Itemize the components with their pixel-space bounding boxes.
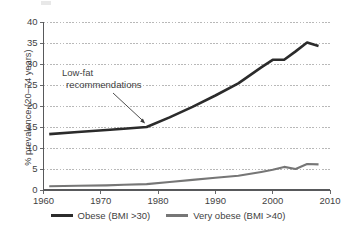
legend-line-swatch-icon — [51, 214, 73, 217]
legend-item[interactable]: Very obese (BMI >40) — [166, 211, 285, 221]
x-tick-label: 1960 — [24, 196, 64, 206]
series-very-obese-bmi-40 — [49, 164, 318, 186]
y-axis-title: % prevalence (20–74 years) — [24, 28, 33, 188]
annotation-arrow-icon — [113, 93, 145, 124]
x-tick-label: 1980 — [138, 196, 178, 206]
annotation-low-fat-recommendations: Low-fat recommendations — [62, 67, 172, 91]
chart-legend: Obese (BMI >30)Very obese (BMI >40) — [0, 211, 336, 221]
x-tick-label: 2000 — [253, 196, 293, 206]
gridlines — [44, 22, 331, 190]
legend-line-swatch-icon — [166, 214, 188, 217]
annotation-line-1: Low-fat — [62, 67, 93, 78]
y-tick-label: 40 — [16, 17, 38, 27]
x-tick-label: 1970 — [81, 196, 121, 206]
legend-label: Obese (BMI >30) — [78, 211, 151, 221]
x-tick-label: 2010 — [310, 196, 345, 206]
x-tick-label: 1990 — [195, 196, 235, 206]
annotation-line-2: recommendations — [62, 79, 172, 91]
legend-label: Very obese (BMI >40) — [193, 211, 285, 221]
legend-item[interactable]: Obese (BMI >30) — [51, 211, 151, 221]
